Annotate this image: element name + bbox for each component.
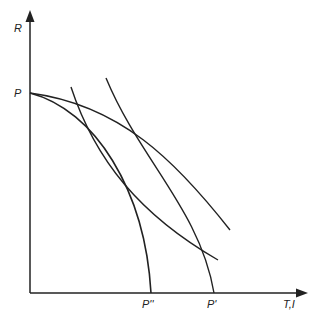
point-p-double-prime-label: P'' xyxy=(142,299,154,310)
steep-curve-left xyxy=(71,87,218,260)
point-p-label: P xyxy=(14,88,21,99)
point-p-prime-label: P' xyxy=(207,299,216,310)
y-axis-label: R xyxy=(14,23,22,34)
x-axis-label: T,I xyxy=(283,299,295,310)
diagram-canvas xyxy=(0,0,317,321)
outer-frontier-curve xyxy=(30,93,230,230)
steep-curve-right xyxy=(106,78,214,293)
